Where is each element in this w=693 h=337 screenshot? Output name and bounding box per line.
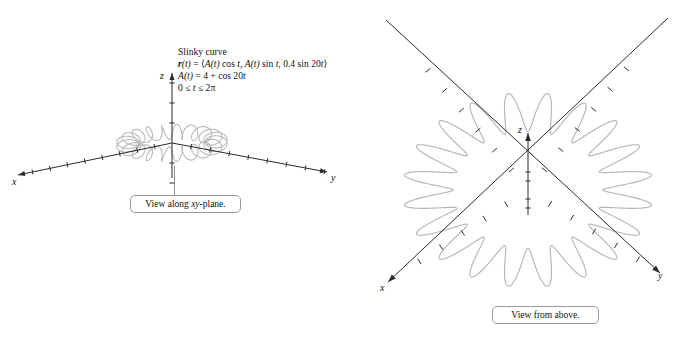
- caption-right-text: View from above.: [511, 310, 579, 320]
- axis-label-z-left: z: [160, 70, 164, 81]
- caption-view-along-xy-plane: View along xy-plane.: [130, 195, 241, 213]
- equation-line-domain: 0 ≤ t ≤ 2π: [178, 82, 378, 94]
- caption-leader-line-left: [174, 166, 175, 195]
- figure-title: Slinky curve: [178, 46, 378, 58]
- equation-line-a: A(t) = 4 + cos 20t: [178, 70, 378, 82]
- caption-view-from-above: View from above.: [492, 306, 599, 324]
- axis-label-y-right: y: [658, 270, 662, 281]
- plot-view-from-above: [368, 0, 693, 300]
- equation-block: Slinky curve r(t) = ⟨A(t) cos t, A(t) si…: [178, 46, 378, 94]
- axis-label-z-right: z: [518, 124, 522, 135]
- panel-view-along-xy-plane: x z y: [0, 0, 370, 225]
- panel-view-from-above: x z y: [368, 0, 693, 300]
- axis-label-y-left: y: [331, 172, 335, 183]
- caption-left-text: View along xy-plane.: [145, 199, 225, 209]
- axes-right: [386, 18, 668, 282]
- slinky-curve-figure: x z y Slinky curve r(t) = ⟨A(t) cos t, A…: [0, 0, 693, 337]
- axis-label-x-right: x: [380, 282, 384, 293]
- axis-label-x-left: x: [12, 176, 16, 187]
- plot-view-along-xy-plane: [0, 0, 370, 225]
- equation-line-r: r(t) = ⟨A(t) cos t, A(t) sin t, 0.4 sin …: [178, 58, 378, 70]
